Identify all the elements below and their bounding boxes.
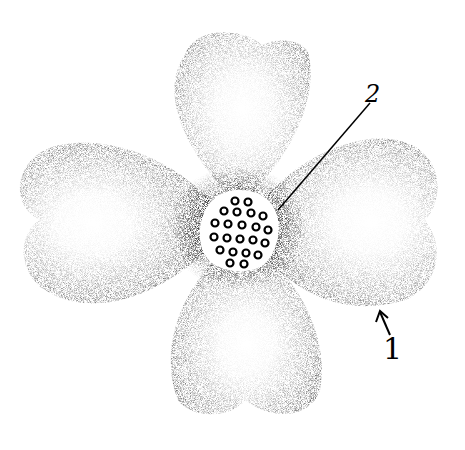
label-1: 1 bbox=[383, 334, 402, 364]
center-flower-cluster bbox=[200, 190, 279, 271]
flower-illustration bbox=[0, 0, 465, 450]
label-2: 2 bbox=[365, 82, 380, 106]
